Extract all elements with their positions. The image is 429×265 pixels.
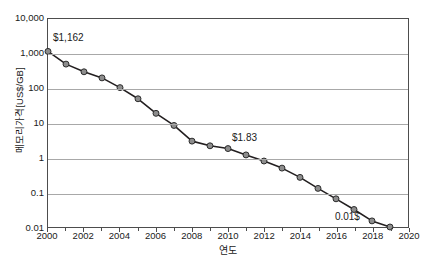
y-axis-tick-label: 0.1 (31, 188, 44, 198)
x-axis-tick-mark (228, 228, 229, 232)
y-axis-tick-label: 1,000 (20, 48, 44, 58)
x-axis-tick-mark (119, 228, 120, 232)
x-axis-tick-mark (300, 228, 301, 232)
gridline (48, 89, 408, 90)
x-axis-tick-mark (156, 228, 157, 232)
x-axis-tick-mark (138, 228, 139, 231)
series-svg (48, 19, 408, 227)
data-point (81, 69, 87, 75)
data-annotation: $1.83 (232, 133, 257, 143)
y-axis-tick-labels: 10,0001,0001001010.10.01 (0, 0, 44, 265)
x-axis-tick-label: 2014 (290, 231, 311, 241)
y-axis-tick-label: 1 (39, 153, 44, 163)
data-point (279, 165, 285, 171)
x-axis-tick-mark (192, 228, 193, 232)
x-axis-tick-mark (319, 228, 320, 231)
x-axis-tick-mark (65, 228, 66, 231)
x-axis-tick-label: 2000 (36, 231, 57, 241)
data-point (153, 110, 159, 116)
data-annotation: $1,162 (53, 33, 84, 43)
data-point (207, 143, 213, 149)
x-axis-tick-label: 2018 (362, 231, 383, 241)
x-axis-tick-label: 2016 (326, 231, 347, 241)
x-axis-tick-mark (391, 228, 392, 231)
x-axis-tick-mark (409, 228, 410, 232)
x-axis-tick-mark (282, 228, 283, 231)
data-point (99, 75, 105, 81)
x-axis-tick-label: 2010 (217, 231, 238, 241)
gridline (48, 54, 408, 55)
memory-price-chart: 메모리가격[US$/GB] 10,0001,0001001010.10.01 2… (0, 0, 429, 265)
data-point (297, 174, 303, 180)
x-axis-tick-label: 2006 (145, 231, 166, 241)
data-point (225, 146, 231, 152)
x-axis-tick-mark (101, 228, 102, 231)
x-axis-tick-label: 2004 (109, 231, 130, 241)
x-axis-tick-mark (246, 228, 247, 231)
x-axis-tick-mark (83, 228, 84, 232)
y-axis-tick-label: 10,000 (15, 13, 44, 23)
data-point (135, 96, 141, 102)
x-axis-tick-mark (47, 228, 48, 232)
gridline (48, 194, 408, 195)
data-point (333, 196, 339, 202)
gridline (48, 124, 408, 125)
x-axis-tick-label: 2012 (254, 231, 275, 241)
gridline (48, 159, 408, 160)
x-axis-tick-mark (210, 228, 211, 231)
x-axis-tick-mark (355, 228, 356, 231)
x-axis-title: 연도 (47, 245, 409, 256)
plot-area (47, 18, 409, 228)
x-axis-tick-mark (174, 228, 175, 231)
y-axis-tick-label: 100 (28, 83, 44, 93)
data-point (369, 218, 375, 224)
data-point (189, 138, 195, 144)
x-axis-tick-label: 2020 (398, 231, 419, 241)
x-axis-tick-label: 2002 (73, 231, 94, 241)
x-axis-tick-mark (337, 228, 338, 232)
data-annotation: 0.01$ (335, 212, 360, 222)
data-point (63, 61, 69, 67)
x-axis-tick-mark (373, 228, 374, 232)
data-point (243, 152, 249, 158)
x-axis-tick-label: 2008 (181, 231, 202, 241)
y-axis-tick-label: 10 (33, 118, 44, 128)
x-axis-tick-mark (264, 228, 265, 232)
data-point (315, 185, 321, 191)
